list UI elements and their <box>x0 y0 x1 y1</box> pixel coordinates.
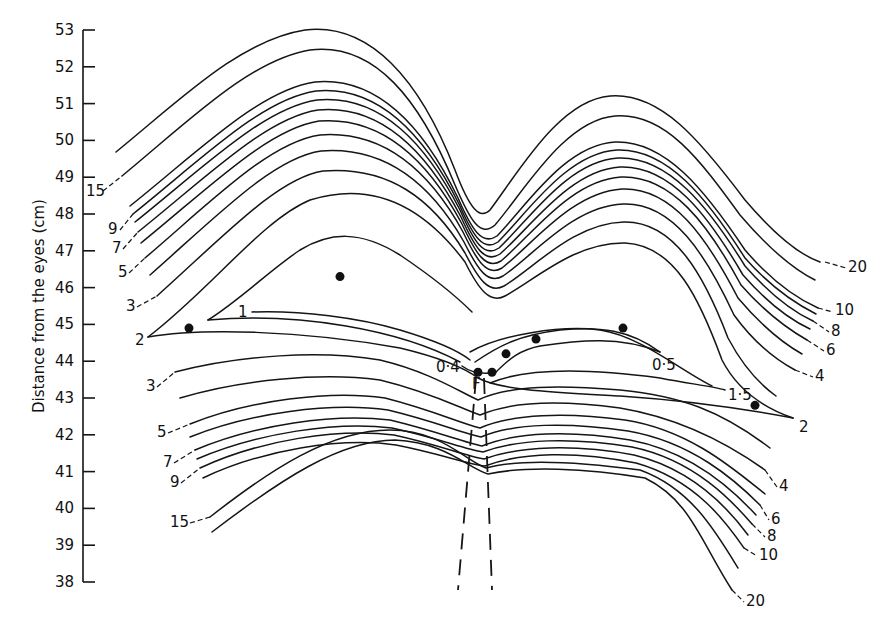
contour-label: 3 <box>126 297 136 315</box>
upper-contours <box>116 29 820 418</box>
contour-label: 8 <box>767 527 777 545</box>
contour-10-upper <box>130 82 818 308</box>
contour-label: 3 <box>146 377 156 395</box>
contour-label: 6 <box>771 510 781 528</box>
data-point <box>532 335 541 344</box>
contour-plot: 53525150494847464544434241403938 Distanc… <box>0 0 891 623</box>
contour-label: 4 <box>779 477 789 495</box>
contour-label: 4 <box>815 367 825 385</box>
contour-label: 15 <box>170 513 189 531</box>
y-tick-label: 47 <box>55 242 74 260</box>
y-tick-label: 49 <box>55 168 74 186</box>
data-point <box>488 368 497 377</box>
data-point <box>185 324 194 333</box>
y-tick-label: 38 <box>55 573 74 591</box>
contour-label: 0·5 <box>652 356 676 374</box>
contour-label: 6 <box>826 341 836 359</box>
y-tick-label: 45 <box>55 315 74 333</box>
contour-label: 10 <box>835 301 854 319</box>
contour-15-upper <box>122 49 815 280</box>
y-tick-label: 46 <box>55 279 74 297</box>
contour-10-lower <box>203 443 744 548</box>
contour-label: 2 <box>799 418 809 436</box>
contour-label: 5 <box>118 263 128 281</box>
contour-label: 1·5 <box>728 386 752 404</box>
contour-8-lower <box>197 426 752 524</box>
y-tick-label: 52 <box>55 58 74 76</box>
contour-label: 5 <box>157 423 167 441</box>
contour-label: 20 <box>848 258 867 276</box>
y-tick-label: 50 <box>55 131 74 149</box>
contour-label: 20 <box>746 592 765 610</box>
contour-label: 9 <box>170 473 180 491</box>
contour-label: 0·4 <box>436 358 460 376</box>
contour-label: 7 <box>112 239 122 257</box>
contour-0-5 <box>475 329 660 362</box>
y-tick-label: 40 <box>55 499 74 517</box>
data-point <box>502 349 511 358</box>
contour-4-upper <box>150 151 795 370</box>
y-axis-ticks <box>83 30 95 582</box>
contour-label: 8 <box>831 322 841 340</box>
y-axis-title: Distance from the eyes (cm) <box>30 199 48 413</box>
y-tick-label: 39 <box>55 536 74 554</box>
contour-figure: 53525150494847464544434241403938 Distanc… <box>0 0 891 623</box>
fixation-point-label: F <box>472 375 481 393</box>
data-point <box>336 272 345 281</box>
y-axis-tick-labels: 53525150494847464544434241403938 <box>55 21 74 591</box>
contour-20-lower <box>212 440 732 590</box>
contour-3-lower <box>175 355 770 448</box>
contour-label: 9 <box>108 220 118 238</box>
y-tick-label: 48 <box>55 205 74 223</box>
contour-label: 1 <box>238 303 248 321</box>
contour-label: 7 <box>163 453 173 471</box>
y-tick-label: 53 <box>55 21 74 39</box>
y-tick-label: 43 <box>55 389 74 407</box>
inner-contours <box>148 318 793 418</box>
contour-2-lower <box>148 332 793 418</box>
contour-9-lower <box>200 433 748 535</box>
y-tick-label: 41 <box>55 463 74 481</box>
y-tick-label: 51 <box>55 95 74 113</box>
contour-label: 15 <box>86 182 105 200</box>
data-point <box>619 324 628 333</box>
visual-axes <box>458 378 492 590</box>
y-axis: 53525150494847464544434241403938 Distanc… <box>30 21 95 591</box>
contour-0-5-lower <box>495 341 660 373</box>
contour-label: 10 <box>759 546 778 564</box>
contour-label: 2 <box>135 331 145 349</box>
y-tick-label: 44 <box>55 352 74 370</box>
y-tick-label: 42 <box>55 426 74 444</box>
